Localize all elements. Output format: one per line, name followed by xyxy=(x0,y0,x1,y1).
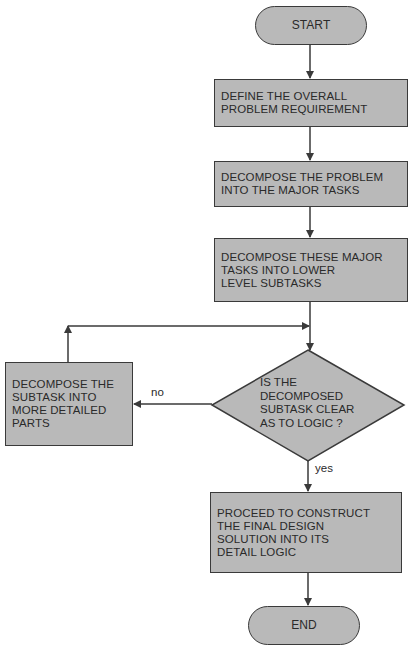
start-label: START xyxy=(292,19,331,32)
start-terminator: START xyxy=(255,6,367,45)
yes-label: yes xyxy=(315,462,333,474)
construct-solution-box: PROCEED TO CONSTRUCT THE FINAL DESIGN SO… xyxy=(210,492,402,573)
define-requirement-box: DEFINE THE OVERALL PROBLEM REQUIREMENT xyxy=(214,79,408,127)
no-label: no xyxy=(151,386,164,398)
construct-solution-text: PROCEED TO CONSTRUCT THE FINAL DESIGN SO… xyxy=(217,507,370,559)
end-label: END xyxy=(291,619,317,632)
end-terminator: END xyxy=(248,606,360,645)
decompose-major-tasks-box: DECOMPOSE THE PROBLEM INTO THE MAJOR TAS… xyxy=(214,161,408,207)
decision-text: IS THE DECOMPOSED SUBTASK CLEAR AS TO LO… xyxy=(260,376,354,430)
decompose-detail-box: DECOMPOSE THE SUBTASK INTO MORE DETAILED… xyxy=(5,362,133,446)
define-requirement-text: DEFINE THE OVERALL PROBLEM REQUIREMENT xyxy=(221,90,367,116)
decompose-major-tasks-text: DECOMPOSE THE PROBLEM INTO THE MAJOR TAS… xyxy=(221,171,383,197)
decompose-lower-subtasks-box: DECOMPOSE THESE MAJOR TASKS INTO LOWER L… xyxy=(214,238,408,302)
decompose-detail-text: DECOMPOSE THE SUBTASK INTO MORE DETAILED… xyxy=(12,378,114,430)
decompose-lower-subtasks-text: DECOMPOSE THESE MAJOR TASKS INTO LOWER L… xyxy=(221,251,383,290)
